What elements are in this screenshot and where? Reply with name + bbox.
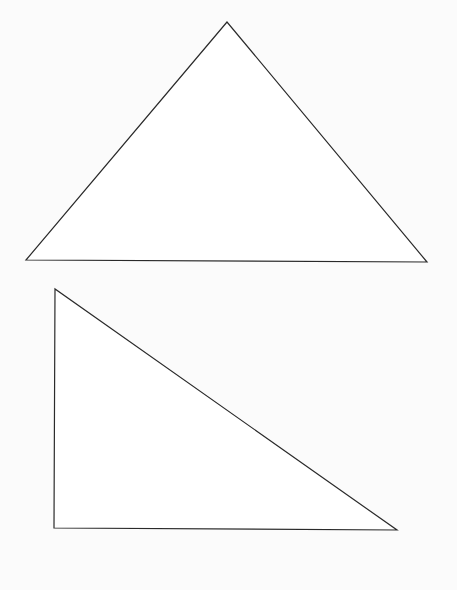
triangle-acute-isosceles	[26, 22, 427, 262]
diagram-canvas	[0, 0, 457, 590]
diagram-svg	[0, 0, 457, 590]
triangle-right	[54, 289, 397, 530]
